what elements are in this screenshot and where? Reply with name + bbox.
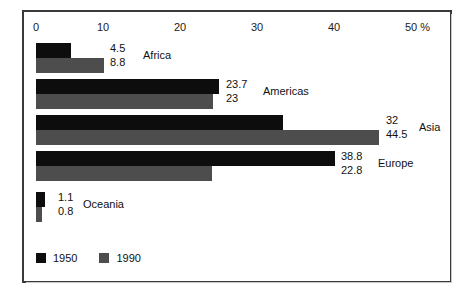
bar-oceania-1950 (36, 192, 45, 207)
legend-item-1990: 1990 (99, 252, 140, 264)
bar-oceania-1990 (36, 207, 42, 222)
value-label-europe-1950: 38.8 (341, 150, 362, 163)
bar-europe-1950 (36, 151, 335, 166)
chart-plot-area: 0 10 20 30 40 50 % 4.5 8.8 Africa 23.7 2… (0, 0, 476, 295)
legend-label-1990: 1990 (116, 252, 140, 264)
value-label-asia-1950: 32 (386, 114, 398, 127)
bar-asia-1990 (36, 130, 379, 145)
legend-item-1950: 1950 (36, 252, 77, 264)
legend-label-1950: 1950 (53, 252, 77, 264)
value-label-europe-1990: 22.8 (341, 164, 362, 177)
xtick-label-30: 30 (251, 21, 263, 33)
bar-africa-1990 (36, 58, 104, 73)
legend-swatch-1950-icon (36, 253, 46, 263)
xtick-label-0: 0 (33, 21, 39, 33)
bar-americas-1990 (36, 94, 213, 109)
bar-americas-1950 (36, 79, 219, 94)
value-label-africa-1990: 8.8 (110, 56, 125, 69)
chart-legend: 1950 1990 (36, 252, 141, 264)
region-label-africa: Africa (143, 49, 171, 62)
value-label-americas-1990: 23 (226, 92, 238, 105)
region-label-europe: Europe (378, 157, 413, 170)
bar-asia-1950 (36, 115, 283, 130)
value-label-oceania-1990: 0.8 (58, 205, 73, 218)
chart-container: 0 10 20 30 40 50 % 4.5 8.8 Africa 23.7 2… (0, 0, 476, 295)
value-label-asia-1990: 44.5 (386, 128, 407, 141)
xtick-label-50: 50 % (405, 21, 430, 33)
xtick-label-20: 20 (174, 21, 186, 33)
value-label-oceania-1950: 1.1 (58, 191, 73, 204)
region-label-oceania: Oceania (83, 198, 124, 211)
bar-europe-1990 (36, 166, 212, 181)
region-label-americas: Americas (263, 85, 309, 98)
legend-swatch-1990-icon (99, 253, 109, 263)
xtick-label-10: 10 (97, 21, 109, 33)
value-label-africa-1950: 4.5 (110, 42, 125, 55)
region-label-asia: Asia (419, 121, 440, 134)
xtick-label-40: 40 (328, 21, 340, 33)
bar-africa-1950 (36, 43, 71, 58)
value-label-americas-1950: 23.7 (226, 78, 247, 91)
